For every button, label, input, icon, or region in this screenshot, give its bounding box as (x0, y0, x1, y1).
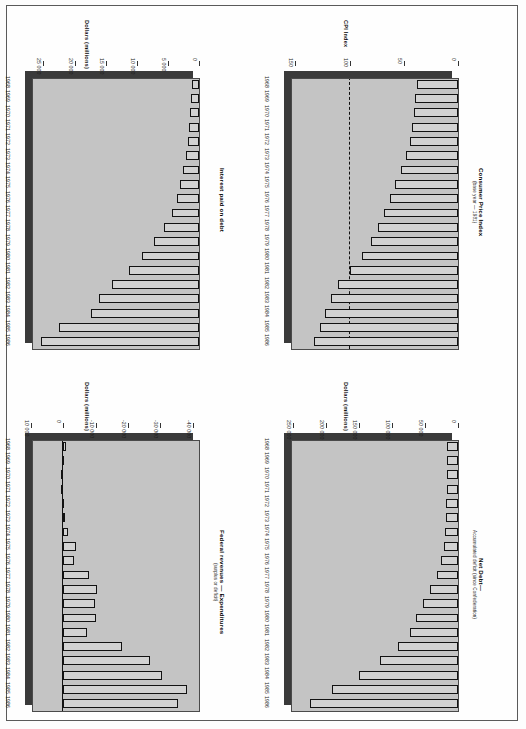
bar (183, 166, 199, 175)
value-tick-label: 150 (288, 58, 294, 67)
bar (63, 556, 74, 565)
category-label: 1981 (5, 262, 11, 274)
bar (380, 656, 458, 665)
bar (63, 685, 187, 694)
bar (63, 599, 95, 608)
chart-title-block: Interest paid on debt (219, 168, 226, 232)
category-label: 1969 (5, 452, 11, 464)
category-label: 1973 (264, 148, 270, 160)
axis-title: Dollars (millions) (343, 382, 349, 431)
bar (441, 556, 458, 565)
category-label: 1980 (264, 248, 270, 260)
bar (62, 456, 64, 465)
category-label: 1968 (264, 438, 270, 450)
category-label: 1977 (264, 205, 270, 217)
category-label: 1970 (5, 467, 11, 479)
value-tick-label: 100 000 (385, 420, 391, 439)
category-label: 1972 (5, 133, 11, 145)
chart-subtitle: Accumulated deficit (since Confederation… (472, 530, 477, 619)
bar (192, 80, 199, 89)
chart-title-block: Net Debt—Accumulated deficit (since Conf… (472, 530, 485, 619)
bar (188, 137, 199, 146)
axis-tick (96, 423, 97, 428)
bar (384, 209, 458, 218)
chart-title: Net Debt— (478, 530, 485, 619)
plot-area (32, 440, 200, 712)
bar (63, 614, 96, 623)
axis-tick (31, 423, 32, 428)
bar (189, 123, 199, 132)
category-label: 1976 (264, 191, 270, 203)
bar (129, 266, 199, 275)
chart-title: Federal revenues — Expenditures (219, 530, 226, 634)
bar (395, 180, 458, 189)
category-label: 1978 (5, 219, 11, 231)
category-label: 1972 (264, 495, 270, 507)
bar (164, 223, 199, 232)
axis-tick (199, 61, 200, 66)
value-tick-label: 250 000 (286, 420, 292, 439)
bar (332, 685, 458, 694)
bar (63, 528, 67, 537)
category-label: 1982 (5, 277, 11, 289)
category-label: 1970 (264, 105, 270, 117)
category-label: 1968 (5, 438, 11, 450)
bar (62, 499, 64, 508)
axis-tick (425, 423, 426, 428)
axis-tick (193, 423, 194, 428)
category-label: 1976 (264, 553, 270, 565)
bar (437, 571, 458, 580)
category-label: 1982 (5, 639, 11, 651)
category-label: 1975 (5, 176, 11, 188)
bar (430, 585, 458, 594)
value-tick-label: 15 000 (99, 58, 105, 74)
plot-area (291, 78, 459, 350)
category-label: 1969 (5, 90, 11, 102)
axis-tick (43, 61, 44, 66)
bar (412, 123, 458, 132)
bar (61, 470, 63, 479)
chart-title: Interest paid on debt (219, 168, 226, 232)
category-label: 1982 (264, 639, 270, 651)
axis-tick (359, 423, 360, 428)
category-label: 1973 (5, 148, 11, 160)
axis-tick (458, 423, 459, 428)
category-label: 1983 (264, 291, 270, 303)
axis-tick (295, 61, 296, 66)
value-tick-label: 5 000 (161, 58, 167, 71)
plot-area (291, 440, 459, 712)
axis-tick (75, 61, 76, 66)
bar (112, 280, 199, 289)
bar (406, 151, 458, 160)
axis-tick (458, 61, 459, 66)
category-label: 1973 (264, 510, 270, 522)
category-label: 1975 (264, 538, 270, 550)
chart-subtitle: (base year — 1981) (472, 168, 477, 236)
category-label: 1968 (5, 76, 11, 88)
value-tick-label: 50 (397, 58, 403, 64)
bar (41, 337, 199, 346)
axis-tick (392, 423, 393, 428)
value-tick-label: 100 (343, 58, 349, 67)
bar (63, 671, 162, 680)
category-label: 1975 (5, 538, 11, 550)
bar (447, 485, 458, 494)
category-label: 1986 (264, 334, 270, 346)
value-tick-label: 50 000 (418, 420, 424, 436)
value-tick-label: 200 000 (319, 420, 325, 439)
category-label: 1968 (264, 76, 270, 88)
bar (378, 223, 458, 232)
bar (63, 656, 150, 665)
axis-tick (350, 61, 351, 66)
category-label: 1985 (5, 320, 11, 332)
bar (154, 237, 199, 246)
value-tick-label: 0 (192, 58, 198, 61)
category-label: 1971 (5, 481, 11, 493)
bar (410, 628, 458, 637)
bar (325, 309, 458, 318)
bar (63, 699, 178, 708)
bar (445, 528, 458, 537)
axis-tick (128, 423, 129, 428)
bar (447, 442, 458, 451)
category-label: 1985 (5, 682, 11, 694)
